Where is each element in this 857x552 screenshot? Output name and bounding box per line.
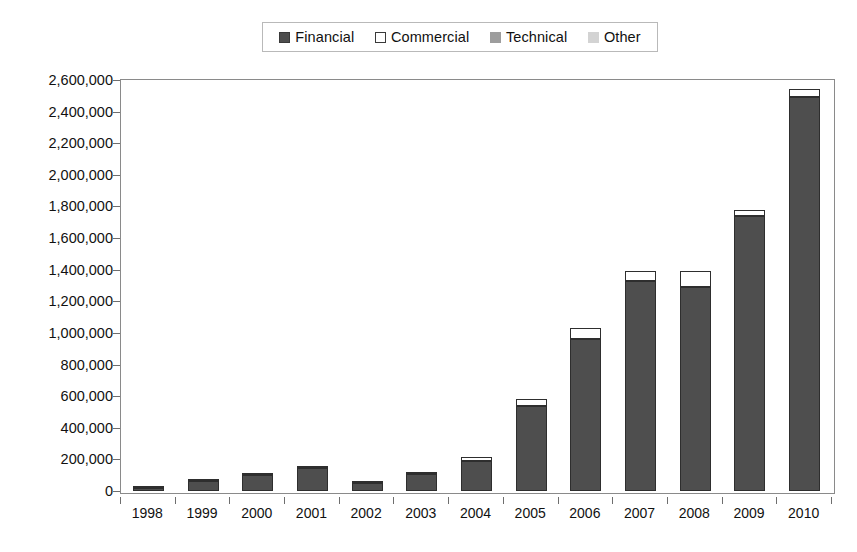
legend-label-technical: Technical — [506, 30, 567, 45]
bar-chart: Financial Commercial Technical Other 020… — [0, 0, 857, 552]
legend-item-other[interactable]: Other — [588, 30, 641, 45]
legend-item-commercial[interactable]: Commercial — [375, 30, 469, 45]
legend-swatch-technical-icon — [490, 32, 501, 43]
x-tick-label: 2007 — [624, 506, 655, 520]
x-tick-label: 1999 — [186, 506, 217, 520]
x-tick-mark — [229, 497, 230, 504]
bar-segment-financial — [570, 339, 601, 491]
y-tick-mark — [113, 112, 120, 113]
y-tick-label: 2,000,000 — [48, 168, 113, 183]
y-tick-mark — [113, 365, 120, 366]
x-tick-mark — [120, 497, 121, 504]
bar-segment-commercial — [297, 466, 328, 468]
bar-segment-financial — [625, 281, 656, 491]
bar-column[interactable] — [242, 474, 273, 491]
x-tick-label: 2001 — [296, 506, 327, 520]
x-tick-label: 2000 — [241, 506, 272, 520]
y-tick-mark — [113, 428, 120, 429]
x-tick-label: 2006 — [569, 506, 600, 520]
y-tick-label: 0 — [105, 484, 113, 499]
legend-item-financial[interactable]: Financial — [279, 30, 354, 45]
y-tick-mark — [113, 238, 120, 239]
bar-segment-commercial — [734, 210, 765, 216]
y-tick-label: 200,000 — [61, 452, 113, 467]
bar-segment-financial — [188, 481, 219, 491]
x-tick-mark — [393, 497, 394, 504]
x-tick-mark — [503, 497, 504, 504]
x-tick-mark — [776, 497, 777, 504]
x-tick-label: 2004 — [460, 506, 491, 520]
x-tick-label: 2003 — [405, 506, 436, 520]
bar-column[interactable] — [352, 483, 383, 491]
bar-segment-commercial — [625, 271, 656, 280]
x-tick-label: 2005 — [515, 506, 546, 520]
bar-segment-financial — [406, 474, 437, 491]
bar-column[interactable] — [734, 210, 765, 491]
y-tick-label: 800,000 — [61, 357, 113, 372]
y-tick-mark — [113, 333, 120, 334]
plot-area — [120, 79, 835, 494]
legend-swatch-financial-icon — [279, 32, 290, 43]
y-tick-label: 1,800,000 — [48, 199, 113, 214]
bar-segment-financial — [352, 483, 383, 491]
bar-segment-financial — [516, 406, 547, 491]
bar-column[interactable] — [789, 89, 820, 491]
y-tick-label: 2,200,000 — [48, 136, 113, 151]
bar-segment-financial — [789, 97, 820, 491]
bar-column[interactable] — [297, 467, 328, 491]
bar-column[interactable] — [461, 457, 492, 491]
bar-segment-financial — [680, 287, 711, 491]
bar-column[interactable] — [570, 328, 601, 491]
y-tick-label: 2,400,000 — [48, 104, 113, 119]
bar-segment-commercial — [461, 457, 492, 461]
y-tick-label: 1,000,000 — [48, 326, 113, 341]
bar-segment-commercial — [680, 271, 711, 288]
y-tick-mark — [113, 396, 120, 397]
bar-column[interactable] — [188, 481, 219, 491]
legend-label-financial: Financial — [295, 30, 354, 45]
bar-segment-commercial — [406, 472, 437, 474]
x-tick-mark — [558, 497, 559, 504]
x-tick-mark — [175, 497, 176, 504]
y-tick-mark — [113, 459, 120, 460]
bar-segment-commercial — [352, 481, 383, 483]
bar-column[interactable] — [406, 472, 437, 491]
x-tick-mark — [722, 497, 723, 504]
legend-swatch-other-icon — [588, 32, 599, 43]
bar-segment-commercial — [133, 486, 164, 488]
y-tick-label: 1,200,000 — [48, 294, 113, 309]
y-tick-mark — [113, 206, 120, 207]
x-tick-mark — [612, 497, 613, 504]
x-tick-label: 2008 — [679, 506, 710, 520]
legend-label-other: Other — [604, 30, 641, 45]
bar-segment-financial — [133, 488, 164, 491]
x-tick-label: 2010 — [788, 506, 819, 520]
x-tick-mark — [339, 497, 340, 504]
y-tick-label: 1,600,000 — [48, 231, 113, 246]
x-axis: 1998199920002001200220032004200520062007… — [120, 497, 833, 523]
bar-segment-commercial — [516, 399, 547, 406]
bar-column[interactable] — [133, 488, 164, 491]
x-tick-label: 2009 — [733, 506, 764, 520]
y-axis: 0200,000400,000600,000800,0001,000,0001,… — [0, 79, 113, 492]
y-tick-label: 600,000 — [61, 389, 113, 404]
y-tick-label: 2,600,000 — [48, 73, 113, 88]
x-tick-label: 2002 — [351, 506, 382, 520]
legend-swatch-commercial-icon — [375, 32, 386, 43]
y-tick-label: 1,400,000 — [48, 262, 113, 277]
y-tick-mark — [113, 80, 120, 81]
bar-segment-commercial — [789, 89, 820, 98]
bar-segment-commercial — [242, 473, 273, 475]
bar-segment-financial — [242, 475, 273, 491]
x-tick-label: 1998 — [132, 506, 163, 520]
bar-column[interactable] — [625, 271, 656, 491]
bar-segment-financial — [461, 461, 492, 491]
y-tick-mark — [113, 143, 120, 144]
y-tick-mark — [113, 301, 120, 302]
bar-segment-financial — [297, 468, 328, 491]
bar-column[interactable] — [680, 270, 711, 491]
bar-segment-commercial — [570, 328, 601, 339]
legend-label-commercial: Commercial — [391, 30, 469, 45]
legend-item-technical[interactable]: Technical — [490, 30, 567, 45]
bar-column[interactable] — [516, 399, 547, 491]
